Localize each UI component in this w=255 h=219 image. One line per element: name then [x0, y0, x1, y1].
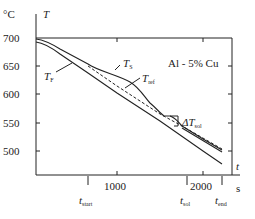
- label-t-start: tstart: [79, 194, 93, 207]
- label-T-S: TS: [123, 57, 132, 70]
- ts-leader: [115, 65, 120, 70]
- y-tick-500: 500: [3, 145, 20, 157]
- label-T-F: TF: [44, 70, 54, 83]
- y-ticks: [36, 38, 232, 151]
- y-tick-550: 550: [3, 117, 20, 129]
- x-axis-label: t: [236, 160, 240, 172]
- label-delta-T-sol: ΔTsol: [181, 116, 202, 129]
- tref-leader: [125, 78, 140, 88]
- y-axis-label: T: [43, 8, 50, 20]
- cooling-curve-chart: °C T 700 650 600 550 500 1000 2000 s t A…: [0, 0, 255, 219]
- x-unit-label: s: [236, 182, 240, 194]
- label-t-end: tend: [215, 194, 227, 207]
- y-tick-650: 650: [3, 60, 20, 72]
- tf-leader: [56, 63, 72, 72]
- x-tick-2000: 2000: [190, 180, 213, 192]
- label-T-ref: Tref: [142, 72, 155, 85]
- label-t-sol: tsol: [180, 194, 190, 207]
- y-tick-600: 600: [3, 88, 20, 100]
- y-unit-label: °C: [3, 8, 15, 20]
- x-tick-1000: 1000: [104, 180, 127, 192]
- y-tick-700: 700: [3, 32, 20, 44]
- chart-title: Al - 5% Cu: [168, 57, 219, 69]
